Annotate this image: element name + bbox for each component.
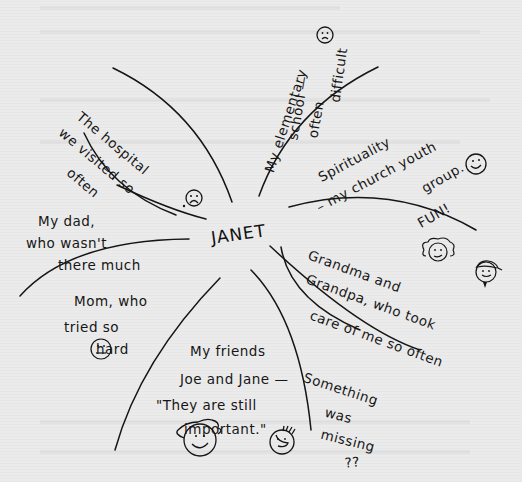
sad-face-icon [314, 24, 336, 46]
branch-text-line: there much [58, 256, 141, 274]
grandpa-face-icon [470, 254, 506, 294]
branch-school-line4: difficult [290, 41, 369, 106]
grandma-face-icon [418, 236, 458, 268]
jane-face-icon [170, 412, 230, 462]
smiley-face-icon [462, 150, 490, 178]
branch-text-line: FUN! [414, 199, 453, 232]
branch-text-line: difficult [326, 46, 351, 103]
branch-dad-line3: there much [58, 220, 141, 292]
branch-text-line: ?? [344, 452, 361, 472]
joe-face-icon [264, 420, 300, 460]
neutral-face-icon [84, 334, 118, 364]
sad-face-icon [180, 186, 206, 212]
